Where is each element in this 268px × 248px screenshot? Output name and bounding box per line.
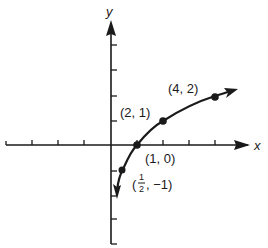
y-axis-arrow-icon (106, 20, 116, 36)
log-graph: x y (4, 2) (2, 1) (1, 0) (0, 0, 268, 248)
svg-text:, −1): , −1) (146, 177, 172, 192)
fraction-numerator: 1 (139, 172, 144, 182)
point-2-1 (159, 117, 167, 125)
label-2-1: (2, 1) (120, 105, 150, 120)
svg-text:(: ( (132, 177, 137, 192)
point-half-neg1 (119, 167, 126, 174)
point-labels: (4, 2) (2, 1) (1, 0) ( 1 2 , −1) (120, 81, 198, 194)
label-1-0: (1, 0) (145, 151, 175, 166)
y-axis: y (105, 4, 117, 244)
point-1-0 (133, 141, 141, 149)
label-4-2: (4, 2) (168, 81, 198, 96)
y-axis-label: y (105, 4, 114, 19)
x-axis-label: x (253, 138, 261, 153)
label-half-neg1: ( 1 2 , −1) (132, 172, 172, 194)
fraction-denominator: 2 (139, 184, 144, 194)
point-4-2 (211, 93, 219, 101)
x-axis-arrow-icon (234, 140, 250, 150)
